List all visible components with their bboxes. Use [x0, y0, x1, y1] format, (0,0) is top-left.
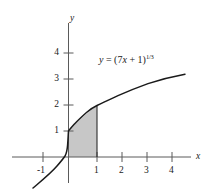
equation-equals: = — [103, 54, 114, 65]
equation-exponent: 1/3 — [146, 53, 154, 60]
y-axis-label: y — [70, 14, 74, 24]
y-tick-label-3: 3 — [48, 74, 59, 84]
curve-equation-label: y = (7x + 1)1/3 — [99, 54, 154, 65]
x-axis-label: x — [196, 152, 200, 162]
x-tick-label-3: 3 — [144, 166, 149, 176]
plot-area — [0, 0, 211, 193]
x-tick-label-2: 2 — [119, 166, 124, 176]
y-tick-label-4: 4 — [48, 48, 59, 58]
graph-figure: y x -1 1 2 3 4 1 2 3 4 y = (7x + 1)1/3 — [0, 0, 211, 193]
x-tick-label-1: 1 — [94, 166, 99, 176]
equation-rest: + 1) — [127, 54, 146, 65]
x-tick-label--1: -1 — [37, 166, 45, 176]
y-tick-label-1: 1 — [48, 126, 59, 136]
y-tick-label-2: 2 — [48, 100, 59, 110]
x-tick-label-4: 4 — [169, 166, 174, 176]
